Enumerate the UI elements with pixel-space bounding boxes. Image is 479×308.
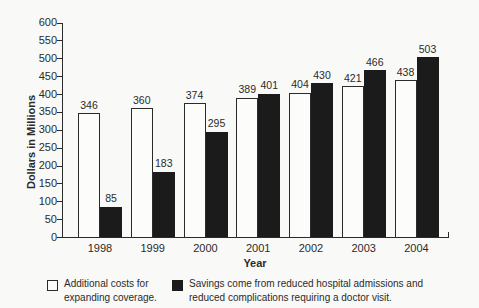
y-tick-0 [57, 237, 62, 238]
x-axis-end-tick [448, 232, 449, 237]
legend-line: Additional costs for [64, 278, 149, 289]
savings-bar-1998 [100, 207, 122, 237]
y-tick-450 [57, 76, 62, 77]
x-tick-label-2003: 2003 [342, 242, 386, 254]
y-tick-100 [57, 201, 62, 202]
costs-bar-2002 [289, 93, 311, 237]
x-tick-label-2004: 2004 [395, 242, 439, 254]
legend-line: Savings come from reduced hospital admis… [189, 278, 423, 289]
savings-value-label-1999: 183 [146, 157, 182, 169]
legend-label-savings: Savings come from reduced hospital admis… [189, 277, 423, 304]
y-tick-label-0: 0 [20, 231, 57, 244]
y-tick-500 [57, 58, 62, 59]
costs-bar-2003 [342, 86, 364, 237]
y-tick-label-250: 250 [20, 141, 57, 154]
y-tick-550 [57, 40, 62, 41]
y-tick-50 [57, 219, 62, 220]
costs-swatch-icon [47, 280, 58, 291]
legend-label-costs: Additional costs for expanding coverage. [64, 277, 157, 304]
costs-bar-2004 [395, 80, 417, 237]
costs-value-label-1999: 360 [124, 94, 160, 106]
costs-bar-2001 [236, 98, 258, 237]
savings-value-label-2000: 295 [199, 117, 235, 129]
y-tick-label-600: 600 [20, 16, 57, 29]
y-tick-label-500: 500 [20, 52, 57, 65]
savings-bar-1999 [153, 172, 175, 237]
savings-value-label-2004: 503 [410, 43, 446, 55]
savings-bar-2004 [417, 57, 439, 237]
x-axis-title: Year [243, 257, 266, 269]
y-tick-250 [57, 148, 62, 149]
y-tick-label-550: 550 [20, 34, 57, 47]
savings-bar-2001 [258, 94, 280, 237]
savings-swatch-icon [172, 280, 183, 291]
y-tick-label-350: 350 [20, 105, 57, 118]
y-tick-600 [57, 23, 62, 24]
x-tick-label-1999: 1999 [131, 242, 175, 254]
x-tick-label-1998: 1998 [78, 242, 122, 254]
y-tick-350 [57, 112, 62, 113]
x-tick-label-2001: 2001 [236, 242, 280, 254]
y-axis-line [62, 23, 63, 239]
y-tick-300 [57, 130, 62, 131]
legend-item-savings: Savings come from reduced hospital admis… [172, 277, 423, 304]
y-tick-label-50: 50 [20, 213, 57, 226]
savings-bar-2000 [206, 132, 228, 237]
costs-bar-1998 [78, 113, 100, 237]
y-tick-label-150: 150 [20, 177, 57, 190]
savings-bar-2002 [311, 83, 333, 237]
costs-value-label-1998: 346 [71, 99, 107, 111]
y-tick-label-450: 450 [20, 70, 57, 83]
costs-value-label-2004: 438 [388, 66, 424, 78]
y-tick-200 [57, 166, 62, 167]
y-tick-label-100: 100 [20, 195, 57, 208]
savings-value-label-1998: 85 [93, 192, 129, 204]
y-tick-label-200: 200 [20, 159, 57, 172]
y-tick-150 [57, 183, 62, 184]
y-tick-label-400: 400 [20, 88, 57, 101]
costs-bar-1999 [131, 108, 153, 237]
legend-line: reduced complications requiring a doctor… [189, 292, 392, 303]
bar-chart-figure: Dollars in Millions Year Additional cost… [0, 0, 479, 308]
y-tick-label-300: 300 [20, 123, 57, 136]
legend-item-costs: Additional costs for expanding coverage. [47, 277, 157, 304]
x-axis-line [62, 237, 449, 238]
costs-value-label-2000: 374 [177, 89, 213, 101]
x-tick-label-2000: 2000 [184, 242, 228, 254]
legend-line: expanding coverage. [64, 292, 157, 303]
y-tick-400 [57, 94, 62, 95]
costs-value-label-2003: 421 [335, 72, 371, 84]
x-tick-label-2002: 2002 [289, 242, 333, 254]
savings-bar-2003 [364, 70, 386, 237]
